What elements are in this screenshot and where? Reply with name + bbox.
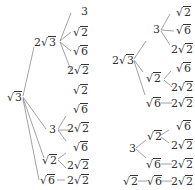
radicand: 6 (153, 97, 161, 109)
right2-root-node: 3 (129, 143, 136, 155)
leaf: √6 (73, 45, 88, 58)
leaf: √6 (176, 24, 191, 37)
radicand: 2 (130, 175, 138, 187)
chain-node-sqrt2: √2 (123, 175, 138, 188)
radicand: 2 (81, 64, 89, 76)
leaf: √2 (176, 6, 191, 19)
sqrt-symbol: √ (73, 141, 80, 154)
coef: 2 (67, 64, 74, 77)
sqrt-symbol: √ (74, 159, 81, 172)
radicand: 2 (49, 154, 57, 166)
radicand: 6 (153, 158, 161, 170)
tree-diagram: √3 2√3 3 √2 √6 2√2 3 √2 √6 2√2 √2 √6 2√2… (0, 0, 195, 190)
sqrt-symbol: √ (73, 45, 80, 58)
left-root-node: √3 (7, 91, 22, 104)
radicand: 2 (154, 130, 162, 142)
coef: 2 (67, 174, 74, 187)
radicand: 6 (154, 175, 162, 187)
chain-node-sqrt6: √6 (147, 175, 162, 188)
sqrt-symbol: √ (178, 139, 185, 152)
left-node-sqrt6: √6 (40, 174, 55, 187)
sqrt-symbol: √ (73, 103, 80, 116)
leaf: 2√2 (171, 81, 193, 94)
sqrt-symbol: √ (73, 84, 80, 97)
radicand: 3 (126, 54, 134, 66)
coef: 2 (171, 175, 178, 188)
sqrt-symbol: √ (176, 6, 183, 19)
coef: 2 (171, 43, 178, 56)
right-node-sqrt2: √2 (146, 72, 161, 85)
coef: 2 (171, 81, 178, 94)
radicand: 2 (81, 159, 89, 171)
leaf: 3 (81, 6, 88, 18)
left-node-2sqrt3: 2√3 (34, 36, 56, 49)
sqrt-symbol: √ (147, 175, 154, 188)
sqrt-symbol: √ (178, 81, 185, 94)
sqrt-symbol: √ (73, 26, 80, 39)
sqrt-symbol: √ (74, 122, 81, 135)
leaf: 2√2 (171, 97, 193, 110)
radicand: 6 (183, 24, 191, 36)
coef: 2 (34, 36, 41, 49)
sqrt-symbol: √ (41, 36, 48, 49)
sqrt-symbol: √ (178, 158, 185, 171)
leaf: 2√2 (67, 174, 89, 187)
leaf: 2√2 (67, 159, 89, 172)
leaf: 2√2 (171, 139, 193, 152)
sqrt-symbol: √ (40, 174, 47, 187)
leaf: √6 (73, 141, 88, 154)
coef: 2 (171, 158, 178, 171)
radicand: 6 (80, 141, 88, 153)
leaf: 2√2 (67, 122, 89, 135)
radicand: 6 (183, 62, 191, 74)
radicand: 2 (185, 43, 193, 55)
coef: 2 (171, 139, 178, 152)
right2-node-sqrt2: √2 (147, 130, 162, 143)
leaf: 2√2 (171, 43, 193, 56)
leaf: √6 (176, 62, 191, 75)
sqrt-symbol: √ (123, 175, 130, 188)
radicand: 6 (47, 174, 55, 186)
radicand: 2 (185, 158, 193, 170)
right2-node-sqrt6: √6 (146, 158, 161, 171)
sqrt-symbol: √ (146, 72, 153, 85)
radicand: 2 (185, 175, 193, 187)
sqrt-symbol: √ (178, 97, 185, 110)
sqrt-symbol: √ (178, 175, 185, 188)
radicand: 6 (80, 103, 88, 115)
sqrt-symbol: √ (119, 54, 126, 67)
chain-node-2sqrt2: 2√2 (171, 175, 193, 188)
radicand: 2 (185, 81, 193, 93)
radicand: 3 (48, 36, 56, 48)
sqrt-symbol: √ (176, 62, 183, 75)
radicand: 2 (80, 26, 88, 38)
sqrt-symbol: √ (146, 97, 153, 110)
radicand: 2 (80, 84, 88, 96)
leaf: √6 (73, 103, 88, 116)
radicand: 2 (153, 72, 161, 84)
leaf: √2 (73, 26, 88, 39)
radicand: 2 (185, 97, 193, 109)
coef: 2 (67, 122, 74, 135)
radicand: 6 (183, 120, 191, 132)
radicand: 2 (183, 6, 191, 18)
coef: 2 (67, 159, 74, 172)
leaf: 2√2 (67, 64, 89, 77)
left-node-sqrt2: √2 (42, 154, 57, 167)
sqrt-symbol: √ (178, 43, 185, 56)
left-node-3: 3 (49, 124, 56, 136)
sqrt-symbol: √ (42, 154, 49, 167)
leaf: √2 (73, 84, 88, 97)
sqrt-symbol: √ (176, 120, 183, 133)
radicand: 2 (81, 174, 89, 186)
sqrt-symbol: √ (74, 174, 81, 187)
right-node-3: 3 (153, 24, 160, 36)
sqrt-symbol: √ (147, 130, 154, 143)
radicand: 3 (14, 91, 22, 103)
coef: 2 (112, 54, 119, 67)
right-node-sqrt6: √6 (146, 97, 161, 110)
leaf: √6 (176, 120, 191, 133)
sqrt-symbol: √ (74, 64, 81, 77)
coef: 2 (171, 97, 178, 110)
leaf: 2√2 (171, 158, 193, 171)
